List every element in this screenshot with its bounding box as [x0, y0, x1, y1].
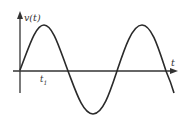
waveform-diagram: v(t) t t1: [0, 0, 186, 116]
t1-tick-label: t1: [40, 74, 47, 86]
t1-tick-subscript: 1: [43, 79, 47, 86]
sine-curve: [20, 25, 174, 114]
x-axis-label: t: [171, 57, 175, 68]
x-axis-arrow-icon: [170, 68, 178, 74]
y-axis-arrow-icon: [17, 11, 23, 19]
y-axis-label: v(t): [24, 12, 41, 23]
